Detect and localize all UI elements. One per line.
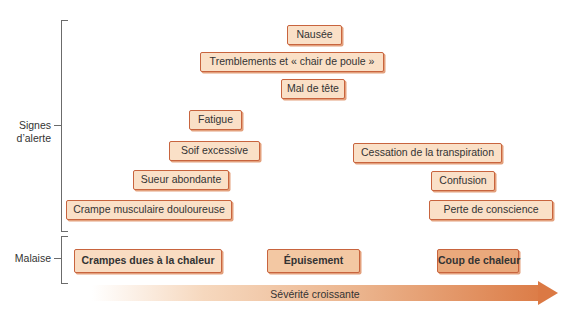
symptom-thirst: Soif excessive bbox=[169, 141, 260, 161]
illness-label: Malaise bbox=[0, 252, 51, 265]
symptom-shivering: Tremblements et « chair de poule » bbox=[200, 52, 384, 72]
symptom-unconsciousness: Perte de conscience bbox=[429, 200, 553, 220]
symptom-confusion: Confusion bbox=[431, 171, 495, 191]
illness-tick bbox=[54, 258, 61, 259]
symptom-nausea: Nausée bbox=[287, 25, 342, 45]
illness-bracket bbox=[61, 236, 68, 284]
symptom-headache: Mal de tête bbox=[281, 79, 345, 99]
symptom-fatigue: Fatigue bbox=[189, 110, 242, 130]
symptom-muscle-cramp: Crampe musculaire douloureuse bbox=[66, 200, 232, 220]
warning-signs-label: Signes d’alerte bbox=[0, 119, 51, 145]
severity-label: Sévérité croissante bbox=[92, 288, 538, 300]
condition-heat-cramps: Crampes dues à la chaleur bbox=[74, 249, 222, 273]
symptom-no-sweating: Cessation de la transpiration bbox=[353, 143, 502, 163]
symptom-sweating: Sueur abondante bbox=[133, 170, 229, 190]
condition-heat-exhaustion: Épuisement bbox=[267, 249, 360, 273]
condition-heat-stroke: Coup de chaleur bbox=[437, 249, 519, 273]
arrow-head-icon bbox=[538, 281, 558, 305]
warning-signs-tick bbox=[54, 125, 61, 126]
